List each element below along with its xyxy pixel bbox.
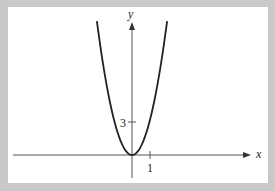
y-tick-label: 3 [120, 116, 126, 130]
parabola-chart: 1 3 x y [0, 0, 275, 191]
y-axis-arrow-icon [129, 22, 135, 30]
x-axis-label: x [255, 147, 262, 161]
y-axis-label: y [127, 7, 134, 21]
x-axis-arrow-icon [243, 152, 251, 158]
x-tick-label: 1 [147, 161, 153, 175]
